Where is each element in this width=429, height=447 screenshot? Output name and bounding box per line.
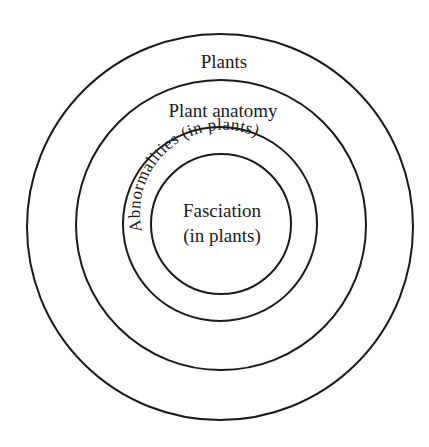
label-fasciation-line2: (in plants) [183,225,261,247]
nested-circles-diagram: Plants Plant anatomy Abnormalities (in p… [0,0,429,447]
ring-fasciation [151,154,291,294]
label-fasciation-line1: Fasciation [183,200,262,221]
label-plants: Plants [201,51,247,72]
